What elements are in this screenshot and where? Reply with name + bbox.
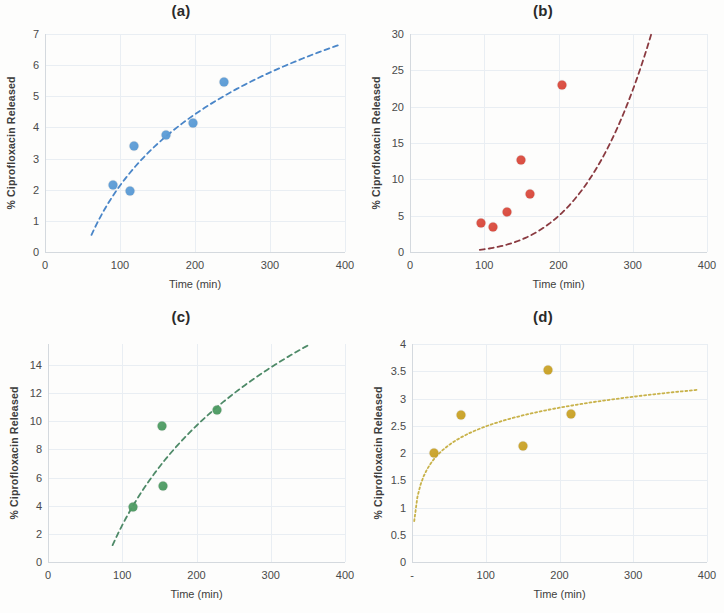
y-axis-tick-label: 5 bbox=[398, 210, 410, 222]
data-point-marker bbox=[161, 131, 170, 140]
figure-grid: (a) 012345670100200300400Time (min)% Cip… bbox=[0, 0, 724, 613]
y-axis-tick-label: 0 bbox=[33, 246, 45, 258]
x-axis-tick-label: 200 bbox=[549, 259, 567, 271]
y-axis-title: % Ciprofloxacin Released bbox=[372, 386, 384, 519]
y-axis-tick-label: 10 bbox=[30, 415, 48, 427]
x-axis-tick-label: 400 bbox=[698, 569, 716, 581]
trendline bbox=[48, 344, 345, 562]
x-axis-line bbox=[45, 252, 345, 253]
y-axis-title: % Ciprofloxacin Released bbox=[5, 76, 17, 209]
y-axis-tick-label: 0 bbox=[400, 556, 412, 568]
y-axis-tick-label: 20 bbox=[392, 101, 410, 113]
panel-c-title: (c) bbox=[0, 308, 362, 325]
x-axis-tick-label: 300 bbox=[261, 259, 279, 271]
data-point-marker bbox=[517, 155, 526, 164]
y-axis-tick-label: 7 bbox=[33, 28, 45, 40]
gridline-vertical bbox=[345, 34, 346, 252]
y-axis-tick-label: 1 bbox=[400, 502, 412, 514]
y-axis-tick-label: 30 bbox=[392, 28, 410, 40]
panel-a-plot: 012345670100200300400Time (min)% Ciprofl… bbox=[45, 34, 345, 252]
panel-b-plot: 0510152025300100200300400Time (min)% Cip… bbox=[410, 34, 707, 252]
x-axis-tick-label: 200 bbox=[187, 569, 205, 581]
y-axis-tick-label: 0.5 bbox=[391, 529, 412, 541]
x-axis-tick-label: 100 bbox=[475, 259, 493, 271]
data-point-marker bbox=[129, 503, 138, 512]
y-axis-tick-label: 2.5 bbox=[391, 420, 412, 432]
y-axis-tick-label: 3.5 bbox=[391, 365, 412, 377]
plot-area bbox=[48, 344, 345, 562]
panel-d: (d) 00.511.522.533.54-100200300400Time (… bbox=[362, 306, 724, 613]
x-axis-title: Time (min) bbox=[169, 278, 221, 290]
y-axis-tick-label: 1 bbox=[33, 215, 45, 227]
x-axis-tick-label: 100 bbox=[113, 569, 131, 581]
x-axis-title: Time (min) bbox=[532, 278, 584, 290]
y-axis-tick-label: 10 bbox=[392, 173, 410, 185]
panel-d-plot: 00.511.522.533.54-100200300400Time (min)… bbox=[412, 344, 707, 562]
panel-d-title: (d) bbox=[362, 308, 724, 325]
y-axis-tick-label: 6 bbox=[33, 59, 45, 71]
data-point-marker bbox=[188, 118, 197, 127]
x-axis-tick-label: 0 bbox=[42, 259, 48, 271]
y-axis-tick-label: 0 bbox=[36, 556, 48, 568]
y-axis-tick-label: 15 bbox=[392, 137, 410, 149]
x-axis-title: Time (min) bbox=[533, 588, 585, 600]
panel-a: (a) 012345670100200300400Time (min)% Cip… bbox=[0, 0, 362, 306]
y-axis-tick-label: 4 bbox=[400, 338, 412, 350]
plot-area bbox=[45, 34, 345, 252]
data-point-marker bbox=[108, 181, 117, 190]
data-point-marker bbox=[130, 142, 139, 151]
data-point-marker bbox=[157, 421, 166, 430]
data-point-marker bbox=[567, 409, 576, 418]
data-point-marker bbox=[220, 78, 229, 87]
trendline bbox=[412, 344, 707, 562]
x-axis-line bbox=[410, 252, 707, 253]
data-point-marker bbox=[456, 410, 465, 419]
x-axis-tick-label: 0 bbox=[407, 259, 413, 271]
x-axis-tick-label: 300 bbox=[624, 259, 642, 271]
x-axis-tick-label: 300 bbox=[624, 569, 642, 581]
data-point-marker bbox=[502, 208, 511, 217]
plot-area bbox=[410, 34, 707, 252]
x-axis-tick-label: 100 bbox=[111, 259, 129, 271]
y-axis-title: % Ciprofloxacin Released bbox=[8, 386, 20, 519]
y-axis-tick-label: 4 bbox=[33, 121, 45, 133]
y-axis-tick-label: 14 bbox=[30, 359, 48, 371]
y-axis-tick-label: 4 bbox=[36, 500, 48, 512]
data-point-marker bbox=[544, 366, 553, 375]
gridline-vertical bbox=[707, 34, 708, 252]
panel-a-title: (a) bbox=[0, 2, 362, 19]
y-axis-title: % Ciprofloxacin Released bbox=[370, 76, 382, 209]
trendline bbox=[410, 34, 707, 252]
data-point-marker bbox=[476, 218, 485, 227]
data-point-marker bbox=[526, 189, 535, 198]
data-point-marker bbox=[125, 187, 134, 196]
y-axis-tick-label: 2 bbox=[33, 184, 45, 196]
data-point-marker bbox=[489, 223, 498, 232]
panel-b-title: (b) bbox=[362, 2, 724, 19]
y-axis-tick-label: 3 bbox=[400, 393, 412, 405]
x-axis-tick-label: - bbox=[410, 569, 414, 581]
y-axis-tick-label: 1.5 bbox=[391, 474, 412, 486]
data-point-marker bbox=[159, 482, 168, 491]
y-axis-tick-label: 6 bbox=[36, 472, 48, 484]
x-axis-line bbox=[48, 562, 345, 563]
x-axis-tick-label: 200 bbox=[550, 569, 568, 581]
panel-c-plot: 024681012140100200300400Time (min)% Cipr… bbox=[48, 344, 345, 562]
gridline-vertical bbox=[345, 344, 346, 562]
x-axis-tick-label: 200 bbox=[186, 259, 204, 271]
y-axis-tick-label: 3 bbox=[33, 153, 45, 165]
panel-c: (c) 024681012140100200300400Time (min)% … bbox=[0, 306, 362, 613]
x-axis-tick-label: 400 bbox=[698, 259, 716, 271]
x-axis-line bbox=[412, 562, 707, 563]
y-axis-tick-label: 2 bbox=[400, 447, 412, 459]
x-axis-tick-label: 400 bbox=[336, 259, 354, 271]
gridline-vertical bbox=[707, 344, 708, 562]
plot-area bbox=[412, 344, 707, 562]
y-axis-tick-label: 5 bbox=[33, 90, 45, 102]
y-axis-tick-label: 0 bbox=[398, 246, 410, 258]
trendline bbox=[45, 34, 345, 252]
data-point-marker bbox=[518, 442, 527, 451]
panel-b: (b) 0510152025300100200300400Time (min)%… bbox=[362, 0, 724, 306]
y-axis-tick-label: 2 bbox=[36, 528, 48, 540]
y-axis-tick-label: 12 bbox=[30, 387, 48, 399]
